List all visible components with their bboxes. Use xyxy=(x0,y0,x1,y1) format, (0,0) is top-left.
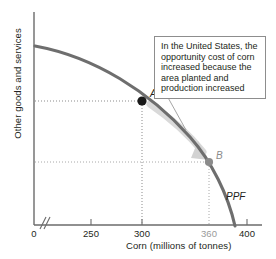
callout-line-4: area planted and xyxy=(161,73,260,84)
y-axis-title: Other goods and services xyxy=(12,14,23,154)
callout-line-3: increased because the xyxy=(161,62,260,73)
x-tick-label-300: 300 xyxy=(127,228,157,239)
callout-line-1: In the United States, the xyxy=(161,41,260,52)
x-tick-label-250: 250 xyxy=(76,228,106,239)
callout-line-5: production increased xyxy=(161,83,260,94)
data-point-b xyxy=(205,158,213,166)
data-point-a xyxy=(137,96,146,105)
x-tick-label-360: 360 xyxy=(194,228,224,239)
guideline-point-b xyxy=(35,162,209,224)
callout-textbox: In the United States, the opportunity co… xyxy=(154,36,266,99)
point-label-b: B xyxy=(216,150,223,161)
ppf-chart-figure: Other goods and services Corn (millions … xyxy=(0,0,276,259)
x-tick-label-0: 0 xyxy=(24,228,44,239)
x-axis-title: Corn (millions of tonnes) xyxy=(126,240,231,251)
x-tick-label-400: 400 xyxy=(232,228,262,239)
x-tick-marks xyxy=(91,219,247,225)
ppf-curve-label: PPF xyxy=(226,191,245,202)
callout-line-2: opportunity cost of corn xyxy=(161,52,260,63)
